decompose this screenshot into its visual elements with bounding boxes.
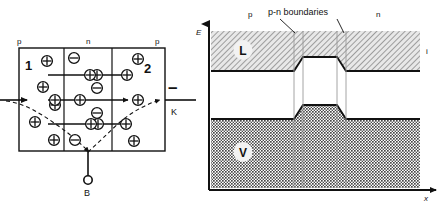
- carrier-hole: [38, 82, 49, 93]
- carrier-hole: [75, 95, 86, 106]
- terminal-label-2: 2: [144, 61, 151, 76]
- axis-label-E: E: [196, 28, 202, 37]
- figure-root: p n p 1 2 B K –: [0, 0, 448, 203]
- carrier-hole: [50, 95, 61, 106]
- carrier-hole: [122, 70, 133, 81]
- carrier-hole: [129, 136, 140, 147]
- carrier-hole: [133, 54, 144, 65]
- region-label-p-right: p: [155, 37, 160, 46]
- carrier-hole: [86, 119, 97, 130]
- terminal-label-1: 1: [25, 58, 32, 73]
- carrier-hole: [133, 95, 144, 106]
- minus-sign-label: –: [168, 78, 177, 97]
- carrier-electron: [92, 83, 103, 94]
- carrier-electron: [70, 135, 81, 146]
- carrier-hole: [49, 135, 60, 146]
- valence-band-letter: V: [239, 146, 247, 160]
- conduction-band-badge: L: [234, 40, 253, 60]
- band-right-edge-label-i: i: [426, 47, 428, 56]
- band-region-label-p: p: [248, 10, 253, 19]
- carrier-hole: [42, 56, 53, 67]
- base-label-B: B: [84, 188, 90, 198]
- cathode-label-K: K: [171, 107, 177, 117]
- carrier-hole: [85, 70, 96, 81]
- carrier-hole: [30, 117, 41, 128]
- carrier-hole: [121, 119, 132, 130]
- figure-canvas: p n p 1 2 B K –: [0, 0, 448, 203]
- carrier-electron: [92, 108, 103, 119]
- region-label-n: n: [86, 37, 90, 46]
- conduction-band-letter: L: [239, 44, 246, 58]
- valence-band-badge: V: [234, 142, 253, 162]
- region-label-p-left: p: [17, 37, 22, 46]
- band-region-label-n: n: [376, 10, 380, 19]
- carrier-electron: [69, 53, 80, 64]
- pn-boundaries-label: p-n boundaries: [268, 7, 329, 17]
